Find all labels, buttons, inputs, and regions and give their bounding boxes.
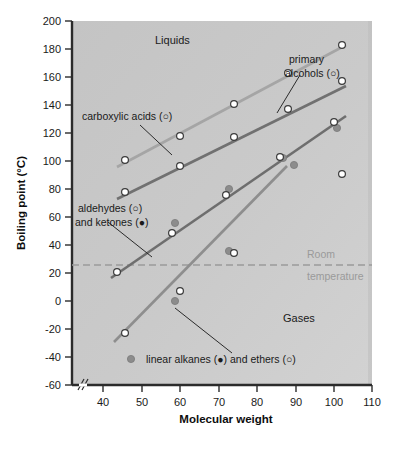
y-tick-label: 120: [43, 127, 61, 139]
primary-alcohols-label-line1: primary: [289, 53, 325, 65]
y-tick-label: 200: [43, 15, 61, 27]
y-tick-label: 0: [55, 295, 61, 307]
data-point: [290, 161, 297, 168]
data-point: [331, 119, 338, 126]
room-temperature-label-line2: temperature: [307, 270, 364, 282]
y-tick-label: 180: [43, 43, 61, 55]
y-tick-label: 40: [49, 239, 61, 251]
y-tick-label: 20: [49, 267, 61, 279]
x-tick-label: 90: [290, 396, 302, 408]
y-tick-label: -40: [45, 351, 61, 363]
y-tick-label: 100: [43, 155, 61, 167]
data-point: [277, 154, 284, 161]
aldehydes-ketones-label-line1: aldehydes (○): [78, 202, 142, 214]
x-tick-label: 70: [213, 396, 225, 408]
data-point: [177, 288, 184, 295]
data-point: [339, 42, 346, 49]
aldehydes-ketones-label-line2: and ketones (●): [75, 216, 148, 228]
data-point: [171, 219, 178, 226]
data-point: [177, 133, 184, 140]
data-point: [231, 250, 238, 257]
primary-alcohols-label-line2: alcohols (○): [285, 67, 340, 79]
x-axis-title: Molecular weight: [179, 413, 272, 425]
carboxylic-acids-label: carboxylic acids (○): [82, 110, 172, 122]
y-tick-label: -60: [45, 379, 61, 391]
x-tick-label: 100: [325, 396, 343, 408]
stray-filled-marker: [127, 355, 134, 362]
gases-region-label: Gases: [283, 312, 315, 324]
data-point: [339, 171, 346, 178]
x-tick-label: 40: [97, 396, 109, 408]
data-point: [122, 157, 129, 164]
liquids-region-label: Liquids: [155, 34, 190, 46]
data-point: [169, 230, 176, 237]
data-point: [122, 330, 129, 337]
data-point: [231, 101, 238, 108]
x-tick-label: 60: [174, 396, 186, 408]
y-tick-label: 60: [49, 211, 61, 223]
y-tick-label: 80: [49, 183, 61, 195]
y-tick-label: -20: [45, 323, 61, 335]
panel-right-shade: [368, 21, 372, 385]
data-point: [177, 163, 184, 170]
boiling-point-vs-molecular-weight-chart: 200 180 160 140 120 100 80 60 40 20 0 -2…: [0, 0, 396, 450]
data-point: [223, 192, 230, 199]
data-point: [114, 269, 121, 276]
chart-figure: 200 180 160 140 120 100 80 60 40 20 0 -2…: [0, 0, 396, 450]
x-tick-label: 80: [251, 396, 263, 408]
y-tick-label: 160: [43, 71, 61, 83]
y-axis-title: Boiling point (°C): [15, 156, 27, 250]
x-tick-label: 50: [136, 396, 148, 408]
data-point: [122, 189, 129, 196]
room-temperature-label-line1: Room: [307, 248, 335, 260]
alkanes-ethers-label-text: linear alkanes (●) and ethers (○): [146, 353, 296, 365]
alkanes-ethers-label: linear alkanes (●) and ethers (○): [127, 353, 295, 365]
x-tick-label: 110: [363, 396, 381, 408]
data-point: [231, 134, 238, 141]
y-tick-label: 140: [43, 99, 61, 111]
data-point: [171, 297, 178, 304]
data-point: [285, 106, 292, 113]
